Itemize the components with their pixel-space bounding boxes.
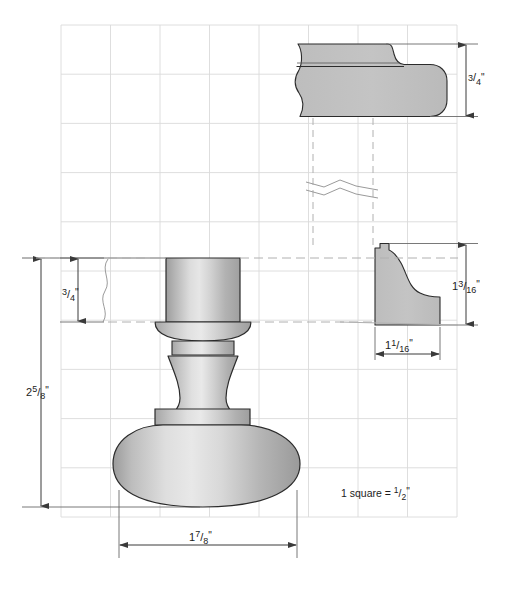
finial-fillet-ring [155,409,250,425]
drawing-sheet: 3/4" 13/16" 11/16" 25/8 [0,0,512,590]
finial-cove-neck [168,356,238,412]
dimension-label-bottom-profile-height: 13/16" [452,279,480,295]
dim-denominator: 16 [466,285,476,295]
scale-note: 1 square = 1/2" [341,485,410,502]
dimension-label-bottom-profile-width: 11/16" [385,338,413,354]
finial-bead-upper [172,341,234,355]
break-curve [103,259,108,322]
break-line-upper [306,180,378,198]
finial-elevation-view [113,258,300,507]
dim-unit: " [481,72,485,83]
dimension-label-overall-width: 17/8" [189,529,212,546]
dimension-label-overall-height: 25/8" [26,384,49,401]
break-line-left [103,259,108,322]
top-profile-outline [295,44,447,117]
top-profile-view [295,44,447,117]
dim-denominator: 16 [399,344,409,354]
finial-tenon [166,258,240,322]
alignment-lines [313,118,373,250]
dim-unit: " [476,279,480,290]
dimension-tenon-height: 3/4" [60,258,104,322]
dim-unit: " [409,338,413,349]
dimension-label-top-profile-height: 3/4" [468,71,485,87]
dim-unit: " [208,530,212,541]
break-zigzag-lower [306,188,378,198]
dimension-label-tenon-height: 3/4" [62,287,79,303]
scale-note-unit: " [406,486,410,497]
dim-unit: " [45,385,49,396]
finial-collar [155,322,251,341]
scale-note-prefix: 1 square = [341,487,394,499]
dim-unit: " [75,287,79,298]
finial-bulb [113,425,300,507]
technical-drawing-canvas: 3/4" 13/16" 11/16" 25/8 [0,0,512,590]
